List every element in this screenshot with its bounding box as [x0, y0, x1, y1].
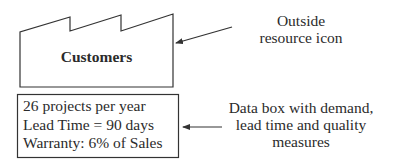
- customers-label: Customers: [20, 48, 173, 66]
- annotation-line: measures: [218, 133, 384, 150]
- data-box-lead-time: Lead Time = 90 days: [23, 116, 163, 135]
- annotation-line: Data box with demand,: [218, 99, 384, 116]
- data-box-demand: 26 projects per year: [23, 97, 163, 116]
- annotation-line: resource icon: [238, 29, 364, 46]
- annotation-line: lead time and quality: [218, 116, 384, 133]
- annotation-line: Outside: [238, 12, 364, 29]
- arrow-to-outside-resource-icon: [176, 27, 232, 43]
- outside-resource-annotation: Outside resource icon: [238, 12, 364, 46]
- data-box-warranty: Warranty: 6% of Sales: [23, 134, 163, 153]
- data-box: 26 projects per year Lead Time = 90 days…: [23, 97, 163, 153]
- data-box-annotation: Data box with demand, lead time and qual…: [218, 99, 384, 150]
